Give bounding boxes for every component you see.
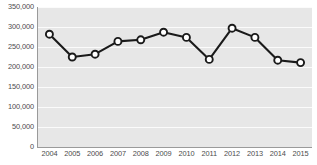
- data-point-marker: [229, 25, 236, 32]
- data-point-marker: [183, 34, 190, 41]
- data-point-marker: [114, 38, 121, 45]
- data-point-marker: [297, 59, 304, 66]
- data-point-marker: [46, 31, 53, 38]
- data-point-marker: [274, 57, 281, 64]
- data-point-marker: [206, 56, 213, 63]
- data-point-marker: [92, 51, 99, 58]
- data-point-marker: [251, 34, 258, 41]
- line-chart: 350,000300,000250,000200,000150,000100,0…: [0, 0, 317, 165]
- series-line: [49, 28, 300, 62]
- data-series-layer: [0, 0, 317, 165]
- data-point-marker: [69, 54, 76, 61]
- data-point-marker: [137, 36, 144, 43]
- data-point-marker: [160, 29, 167, 36]
